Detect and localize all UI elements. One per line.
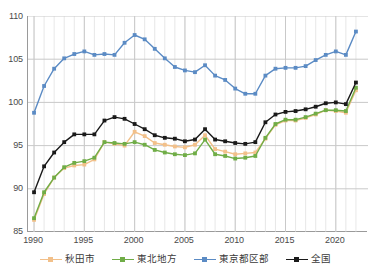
series-marker <box>52 151 56 155</box>
series-marker <box>233 87 237 91</box>
series-marker <box>203 127 207 131</box>
series-marker <box>354 81 358 85</box>
series-marker <box>143 37 147 41</box>
x-tick-2020: 2020 <box>325 235 345 245</box>
series-marker <box>173 152 177 156</box>
legend-label-tohoku: 東北地方 <box>137 254 177 264</box>
series-marker <box>243 142 247 146</box>
series-marker <box>253 154 257 158</box>
series-marker <box>304 64 308 68</box>
series-marker <box>123 142 127 146</box>
series-marker <box>123 41 127 45</box>
legend-item-akita[interactable]: 秋田市 <box>40 254 95 264</box>
x-tick-2010: 2010 <box>224 235 244 245</box>
legend-label-tokyo: 東京都区部 <box>219 254 269 264</box>
series-marker <box>334 108 338 112</box>
series-marker <box>42 164 46 168</box>
series-marker <box>183 139 187 143</box>
series-marker <box>314 58 318 62</box>
series-marker <box>193 138 197 142</box>
series-marker <box>103 119 107 123</box>
series-marker <box>133 140 137 144</box>
series-marker <box>284 118 288 122</box>
series-marker <box>72 52 76 56</box>
series-marker <box>173 145 177 149</box>
legend-swatch-icon-tokyo <box>194 255 216 264</box>
legend-item-national[interactable]: 全国 <box>286 254 331 264</box>
series-marker <box>193 143 197 147</box>
series-marker <box>203 138 207 142</box>
series-marker <box>243 92 247 96</box>
x-tick-2015: 2015 <box>275 235 295 245</box>
series-marker <box>153 133 157 137</box>
series-marker <box>264 74 268 78</box>
y-tick-105: 105 <box>0 54 23 64</box>
series-marker <box>103 140 107 144</box>
series-marker <box>123 117 127 121</box>
legend-swatch-icon-national <box>286 255 308 264</box>
series-marker <box>82 132 86 136</box>
series-marker <box>62 140 66 144</box>
series-marker <box>324 108 328 112</box>
series-marker <box>253 140 257 144</box>
series-marker <box>193 151 197 155</box>
series-marker <box>82 163 86 167</box>
legend-marker-glyph <box>294 257 299 262</box>
series-marker <box>294 118 298 122</box>
series-marker <box>274 113 278 117</box>
series-marker <box>243 156 247 160</box>
series-marker <box>203 133 207 137</box>
series-marker <box>233 141 237 145</box>
series-marker <box>173 137 177 141</box>
series-marker <box>243 151 247 155</box>
series-marker <box>113 115 117 119</box>
series-marker <box>354 30 358 34</box>
series-marker <box>113 53 117 57</box>
legend-marker-glyph <box>202 257 207 262</box>
major-gridlines-y <box>28 16 368 189</box>
plot-area <box>27 16 367 232</box>
series-marker <box>223 150 227 154</box>
legend-marker-glyph <box>120 257 125 262</box>
x-tick-1995: 1995 <box>74 235 94 245</box>
series-marker <box>82 50 86 54</box>
y-tick-90: 90 <box>0 183 23 193</box>
series-marker <box>193 70 197 74</box>
series-marker <box>163 151 167 155</box>
series-marker <box>143 143 147 147</box>
y-tick-85: 85 <box>0 226 23 236</box>
series-marker <box>274 122 278 126</box>
series-marker <box>62 165 66 169</box>
series-marker <box>264 136 268 140</box>
series-marker <box>163 56 167 60</box>
series-marker <box>52 67 56 71</box>
series-marker <box>42 190 46 194</box>
series-marker <box>264 120 268 124</box>
x-tick-2005: 2005 <box>174 235 194 245</box>
legend-item-tokyo[interactable]: 東京都区部 <box>194 254 269 264</box>
legend-item-tohoku[interactable]: 東北地方 <box>112 254 177 264</box>
series-marker <box>133 130 137 134</box>
series-marker <box>344 109 348 113</box>
series-marker <box>304 115 308 119</box>
series-marker <box>143 127 147 131</box>
series-marker <box>153 141 157 145</box>
series-marker <box>284 110 288 114</box>
series-marker <box>284 66 288 70</box>
series-marker <box>223 154 227 158</box>
series-marker <box>223 139 227 143</box>
series-marker <box>143 134 147 138</box>
y-tick-100: 100 <box>0 97 23 107</box>
series-marker <box>203 63 207 67</box>
legend-swatch-icon-akita <box>40 255 62 264</box>
series-marker <box>153 148 157 152</box>
series-marker <box>42 84 46 88</box>
major-gridlines-x <box>34 16 336 232</box>
series-marker <box>133 122 137 126</box>
y-tick-110: 110 <box>0 11 23 21</box>
legend-label-akita: 秋田市 <box>65 254 95 264</box>
series-marker <box>213 138 217 142</box>
series-marker <box>324 101 328 105</box>
series-marker <box>173 65 177 69</box>
legend-swatch-icon-tohoku <box>112 255 134 264</box>
